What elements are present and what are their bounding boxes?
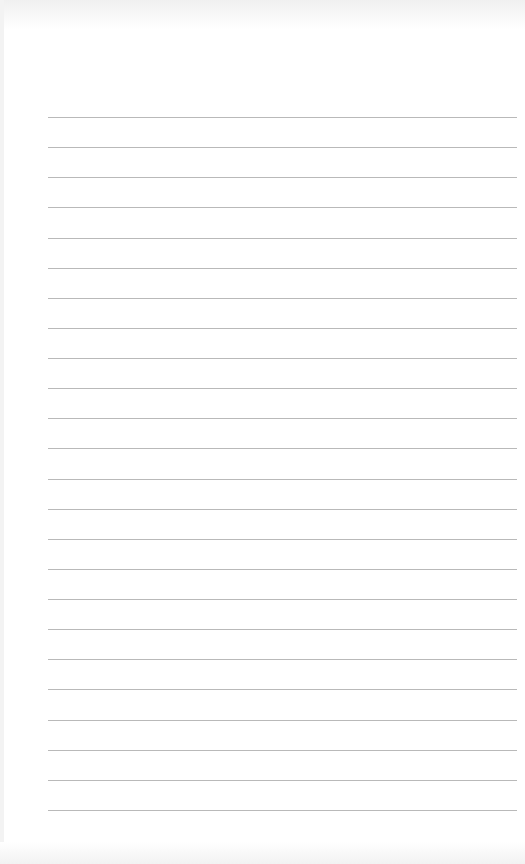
ruled-line: [48, 147, 517, 148]
ruled-line: [48, 569, 517, 570]
ruled-line: [48, 418, 517, 419]
ruled-line: [48, 207, 517, 208]
ruled-line: [48, 117, 517, 118]
ruled-lines: [0, 0, 525, 864]
ruled-line: [48, 358, 517, 359]
ruled-line: [48, 629, 517, 630]
ruled-line: [48, 750, 517, 751]
scan-bottom-edge: [0, 842, 525, 864]
ruled-line: [48, 689, 517, 690]
ruled-line: [48, 448, 517, 449]
ruled-line: [48, 238, 517, 239]
ruled-line: [48, 328, 517, 329]
ruled-line: [48, 298, 517, 299]
ruled-line: [48, 539, 517, 540]
ruled-line: [48, 268, 517, 269]
ruled-line: [48, 599, 517, 600]
ruled-line: [48, 720, 517, 721]
ruled-line: [48, 780, 517, 781]
ruled-line: [48, 509, 517, 510]
ruled-line: [48, 659, 517, 660]
ruled-line: [48, 388, 517, 389]
ruled-line: [48, 177, 517, 178]
ruled-line: [48, 810, 517, 811]
ruled-line: [48, 479, 517, 480]
